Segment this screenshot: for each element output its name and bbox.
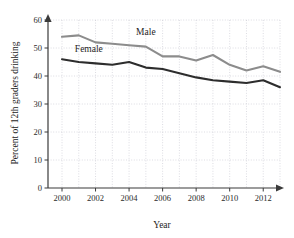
x-axis-ticks: 2000200220042006200820102012 — [54, 188, 272, 203]
y-tick-label-20: 20 — [34, 127, 43, 137]
x-tick-label-2000: 2000 — [54, 193, 71, 203]
y-tick-label-50: 50 — [34, 43, 43, 53]
x-tick-label-2012: 2012 — [255, 193, 272, 203]
series-label-female: Female — [75, 44, 103, 54]
y-tick-label-10: 10 — [34, 155, 43, 165]
line-chart: 0102030405060 20002002200420062008201020… — [0, 0, 294, 238]
y-axis-ticks: 0102030405060 — [34, 15, 49, 193]
y-axis-title: Percent of 12th graders drinking — [10, 41, 20, 164]
chart-figure: 0102030405060 20002002200420062008201020… — [0, 0, 294, 238]
y-tick-label-30: 30 — [34, 99, 43, 109]
y-tick-label-0: 0 — [38, 183, 42, 193]
x-tick-label-2006: 2006 — [154, 193, 171, 203]
x-tick-label-2004: 2004 — [121, 193, 139, 203]
x-tick-label-2008: 2008 — [188, 193, 205, 203]
x-tick-label-2010: 2010 — [221, 193, 238, 203]
y-tick-label-40: 40 — [34, 71, 43, 81]
series-label-male: Male — [136, 27, 156, 37]
y-tick-label-60: 60 — [34, 15, 43, 25]
x-axis-title: Year — [153, 220, 171, 230]
x-tick-label-2002: 2002 — [87, 193, 104, 203]
